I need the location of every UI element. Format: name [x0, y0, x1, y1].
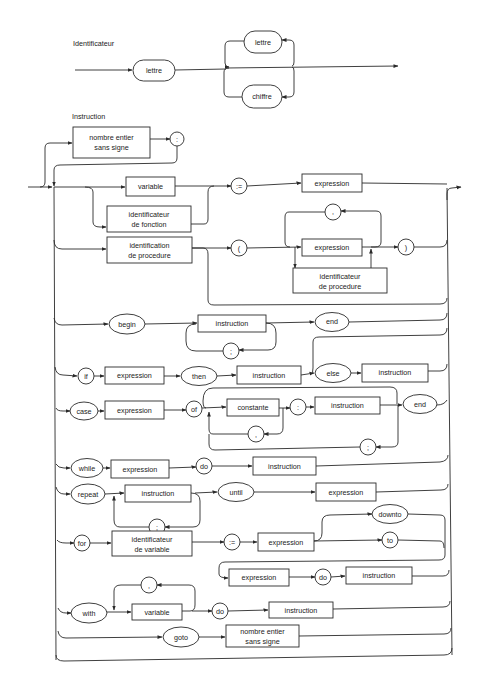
svg-text:de procedure: de procedure	[128, 251, 170, 260]
section-title-instruction: Instruction	[72, 112, 105, 121]
svg-text:;: ;	[367, 443, 369, 452]
svg-text:nombre entier: nombre entier	[240, 627, 285, 636]
case-colon: :	[290, 399, 306, 415]
svg-text:end: end	[326, 317, 338, 326]
svg-text:if: if	[84, 372, 88, 381]
assign-operator: :=	[231, 178, 247, 194]
svg-text:expression: expression	[329, 488, 364, 497]
svg-text:repeat: repeat	[78, 490, 98, 499]
kw-until: until	[218, 483, 254, 502]
svg-text:until: until	[229, 488, 243, 497]
proc-comma: ,	[325, 204, 341, 220]
case-constante: constante	[227, 399, 279, 416]
kw-repeat: repeat	[71, 484, 105, 504]
kw-goto: goto	[163, 627, 199, 647]
svg-text:chiffre: chiffre	[252, 92, 271, 101]
if-expression: expression	[105, 367, 164, 384]
svg-text:begin: begin	[118, 320, 136, 329]
kw-then: then	[181, 367, 217, 386]
svg-text:instruction: instruction	[216, 319, 249, 328]
case-comma: ,	[248, 426, 264, 442]
identificateur-diagram: Identificateur lettre lettre chiffre	[73, 31, 398, 108]
kw-for: for	[74, 535, 90, 551]
svg-text:lettre: lettre	[255, 38, 271, 47]
svg-text:instruction: instruction	[331, 401, 364, 410]
svg-text:while: while	[78, 464, 95, 473]
kw-with: with	[71, 603, 107, 623]
svg-text:expression: expression	[123, 465, 158, 474]
node-lettre: lettre	[133, 60, 175, 81]
svg-text:de procedure: de procedure	[319, 282, 361, 291]
kw-begin: begin	[109, 314, 145, 334]
svg-text:instruction: instruction	[363, 571, 396, 580]
svg-text:lettre: lettre	[146, 66, 162, 75]
assign-func-id: identificateur de fonction	[107, 206, 191, 232]
for-assign: :=	[224, 534, 240, 550]
svg-text:de variable: de variable	[134, 545, 169, 554]
with-variable: variable	[132, 604, 182, 620]
section-title-identificateur: Identificateur	[73, 39, 115, 48]
svg-text:expression: expression	[315, 179, 350, 188]
svg-text:;: ;	[230, 347, 232, 356]
svg-text:instruction: instruction	[142, 489, 175, 498]
svg-text:with: with	[82, 609, 96, 618]
kw-of: of	[186, 401, 202, 417]
svg-text:,: ,	[148, 581, 150, 590]
svg-text::: :	[176, 135, 178, 144]
svg-text::: :	[297, 403, 299, 412]
kw-for-do: do	[315, 569, 331, 585]
svg-text:expression: expression	[269, 538, 304, 547]
svg-text:to: to	[387, 536, 393, 545]
svg-text:instruction: instruction	[285, 606, 318, 615]
svg-text:sans signe: sans signe	[245, 637, 279, 646]
goto-label-box: nombre entier sans signe	[226, 625, 299, 647]
begin-instruction: instruction	[198, 315, 266, 332]
proc-lparen: (	[231, 240, 247, 256]
proc-param-id: identificateur de procedure	[293, 268, 387, 293]
svg-text::=: :=	[229, 538, 235, 547]
kw-while-do: do	[196, 458, 212, 474]
proc-id: identification de procedure	[107, 237, 192, 263]
svg-text:;: ;	[156, 523, 158, 532]
if-instruction: instruction	[237, 366, 301, 384]
svg-text:instruction: instruction	[379, 368, 412, 377]
svg-text::=: :=	[236, 182, 242, 191]
svg-text:end: end	[414, 400, 426, 409]
with-comma: ,	[141, 577, 157, 593]
kw-downto: downto	[372, 505, 408, 524]
kw-case-end: end	[403, 395, 437, 414]
svg-text:instruction: instruction	[253, 371, 286, 380]
svg-text:constante: constante	[237, 403, 268, 412]
case-expression: expression	[105, 401, 164, 419]
repeat-instruction: instruction	[125, 485, 191, 502]
svg-text:identificateur: identificateur	[132, 535, 173, 544]
svg-text:do: do	[319, 573, 327, 582]
svg-text:downto: downto	[378, 510, 401, 519]
case-instruction: instruction	[315, 397, 380, 414]
case-semicolon: ;	[360, 439, 376, 455]
svg-text:de fonction: de fonction	[131, 220, 166, 229]
svg-text:variable: variable	[144, 608, 169, 617]
kw-case: case	[70, 402, 98, 420]
begin-semicolon: ;	[223, 343, 239, 359]
kw-with-do: do	[212, 603, 228, 619]
svg-text:goto: goto	[174, 633, 188, 642]
svg-text:sans signe: sans signe	[94, 143, 128, 152]
kw-to: to	[382, 532, 398, 548]
svg-text:do: do	[200, 462, 208, 471]
with-instruction: instruction	[269, 602, 333, 618]
svg-text:expression: expression	[117, 406, 152, 415]
while-instruction: instruction	[253, 457, 316, 475]
svg-text:identificateur: identificateur	[129, 210, 170, 219]
until-expression: expression	[316, 483, 376, 501]
svg-text:do: do	[216, 607, 224, 616]
svg-text:identification: identification	[130, 241, 170, 250]
for-expression: expression	[258, 533, 314, 551]
for-expression2: expression	[229, 569, 289, 586]
svg-text:then: then	[192, 372, 206, 381]
svg-text:identificateur: identificateur	[320, 272, 361, 281]
svg-text:,: ,	[255, 430, 257, 439]
svg-text:): )	[405, 243, 407, 252]
syntax-diagram: Identificateur lettre lettre chiffre Ins…	[0, 0, 477, 694]
for-var-id: identificateur de variable	[112, 531, 192, 556]
